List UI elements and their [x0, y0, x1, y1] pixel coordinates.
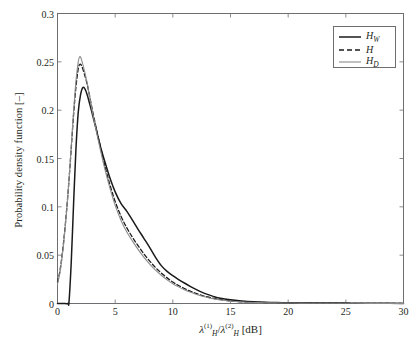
legend-swatch-h-d [338, 56, 362, 68]
x-axis-sup-2: (2) [225, 322, 233, 330]
x-tick-label: 30 [389, 306, 419, 317]
x-axis-label: λ(1)H/λ(2)H [dB] [57, 322, 404, 338]
legend-box: HWHHD [333, 26, 396, 68]
x-axis-units: [dB] [242, 323, 262, 335]
x-tick-label: 15 [216, 306, 246, 317]
legend-item-h-d[interactable]: HD [334, 55, 395, 69]
x-tick-label: 0 [43, 306, 73, 317]
x-tick-label: 10 [158, 306, 188, 317]
legend-swatch-h-w [338, 31, 362, 43]
legend-label-h-d: HD [366, 55, 379, 69]
x-tick-label: 20 [273, 306, 303, 317]
x-tick-label: 5 [100, 306, 130, 317]
legend-swatch-h [338, 44, 362, 56]
x-tick-label-group: 051015202530 [0, 306, 419, 322]
x-tick-label: 25 [331, 306, 361, 317]
legend-label-h: H [366, 44, 373, 55]
x-axis-sup-1: (1) [204, 322, 212, 330]
figure-canvas: Probability density function [–] 00.050.… [0, 0, 419, 354]
x-axis-sub-2: H [234, 329, 239, 338]
